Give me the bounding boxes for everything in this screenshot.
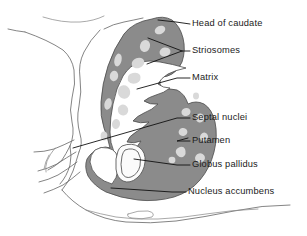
label-globus-pallidus: Globus pallidus xyxy=(192,159,258,169)
label-striosomes: Striosomes xyxy=(192,45,240,55)
figure-canvas: Head of caudate Striosomes Matrix Septal… xyxy=(0,0,307,236)
label-putamen: Putamen xyxy=(192,135,230,145)
label-nucleus-accumbens: Nucleus accumbens xyxy=(188,186,274,196)
label-head-of-caudate: Head of caudate xyxy=(192,18,262,28)
label-matrix: Matrix xyxy=(192,72,218,82)
label-septal-nuclei: Septal nuclei xyxy=(192,112,247,122)
anatomy-diagram: Head of caudate Striosomes Matrix Septal… xyxy=(0,0,307,236)
